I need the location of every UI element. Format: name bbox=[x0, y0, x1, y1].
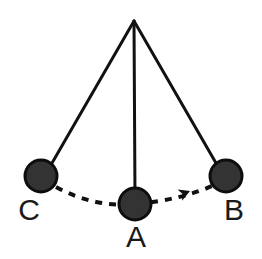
pendulum-bob-c bbox=[25, 160, 57, 192]
pendulum-diagram: C A B bbox=[0, 0, 262, 259]
bob-label-b: B bbox=[224, 193, 244, 226]
pendulum-string-a bbox=[134, 21, 135, 198]
pendulum-bob-b bbox=[210, 160, 242, 192]
bob-label-a: A bbox=[126, 220, 146, 253]
bob-label-c: C bbox=[18, 193, 40, 226]
pendulum-figure: C A B bbox=[0, 0, 262, 259]
pendulum-bob-a bbox=[119, 188, 151, 220]
